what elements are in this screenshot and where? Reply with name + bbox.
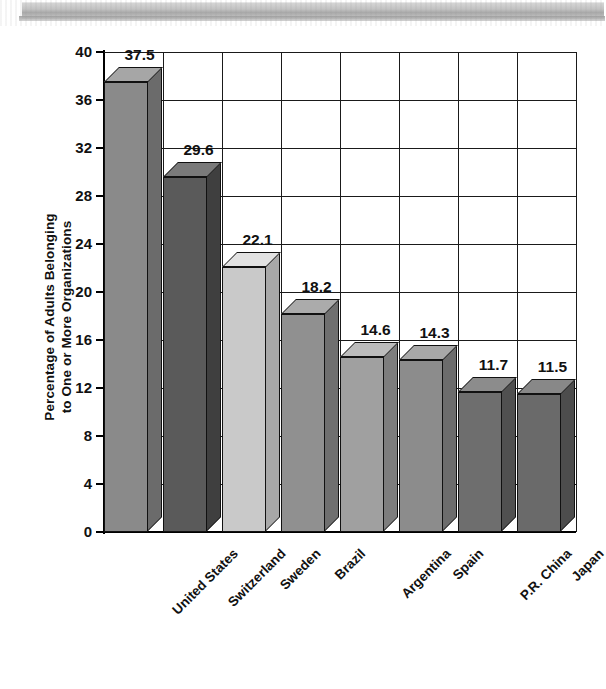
x-category-label: Brazil <box>321 544 358 562</box>
x-category-label-text: Japan <box>568 546 606 584</box>
bar-side-face <box>206 162 221 532</box>
bar <box>163 177 207 532</box>
bar-value-label: 14.3 <box>405 324 464 342</box>
bar-value-label: 37.5 <box>110 46 169 64</box>
bar-value-label: 18.2 <box>287 278 346 296</box>
y-tick-label: 4 <box>22 475 92 492</box>
bar <box>458 392 502 532</box>
bar-side-face <box>560 379 575 532</box>
bar-side-face <box>442 345 457 532</box>
bar-side-face <box>383 342 398 532</box>
y-tick-label: 28 <box>22 187 92 204</box>
bar-front-face <box>281 314 325 532</box>
bar-side-face <box>501 377 516 532</box>
bar-side-face <box>324 299 339 532</box>
bar-front-face <box>458 392 502 532</box>
y-axis-tick-labels: 0481216202428323640 <box>14 52 92 532</box>
bar <box>281 314 325 532</box>
x-category-label-text: Brazil <box>331 546 368 583</box>
bar <box>340 357 384 532</box>
plot-area: 37.529.622.118.214.614.311.711.5 <box>104 52 576 532</box>
y-tick-label: 36 <box>22 91 92 108</box>
x-category-label-text: Sweden <box>276 546 323 593</box>
x-category-label-text: Spain <box>449 546 486 583</box>
y-tick-label: 8 <box>22 427 92 444</box>
y-tick-label: 24 <box>22 235 92 252</box>
x-category-label: Spain <box>439 544 476 562</box>
bar-side-face <box>265 252 280 532</box>
y-tick-label: 32 <box>22 139 92 156</box>
bar-front-face <box>104 82 148 532</box>
x-category-label: Japan <box>557 544 596 562</box>
bar <box>517 394 561 532</box>
y-tick-label: 0 <box>22 523 92 540</box>
y-tick-label: 12 <box>22 379 92 396</box>
bar-front-face <box>399 360 443 532</box>
gridline-vertical <box>576 52 577 532</box>
bar-value-label: 11.7 <box>464 356 523 374</box>
bar-side-face <box>147 67 162 532</box>
x-category-label: Argentina <box>380 544 443 562</box>
y-tick-label: 40 <box>22 43 92 60</box>
bar <box>222 267 266 532</box>
scan-edge-artifact <box>22 2 604 19</box>
y-tick-label: 20 <box>22 283 92 300</box>
x-axis-category-labels: United StatesSwitzerlandSwedenBrazilArge… <box>104 536 594 686</box>
bar-front-face <box>222 267 266 532</box>
bar <box>399 360 443 532</box>
bar-front-face <box>517 394 561 532</box>
x-category-label: P.R. China <box>498 544 564 562</box>
bar-front-face <box>340 357 384 532</box>
bar-value-label: 14.6 <box>346 321 405 339</box>
y-tick-label: 16 <box>22 331 92 348</box>
bar-value-label: 22.1 <box>228 231 287 249</box>
bar-value-label: 11.5 <box>523 358 582 376</box>
bar <box>104 82 148 532</box>
bar-value-label: 29.6 <box>169 141 228 159</box>
bar-front-face <box>163 177 207 532</box>
x-category-label: Sweden <box>262 544 313 562</box>
